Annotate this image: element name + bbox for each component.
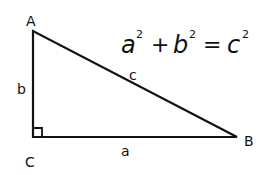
equation-c: c — [227, 31, 240, 59]
right-angle-marker — [33, 128, 42, 137]
equation-b: b — [173, 31, 188, 59]
vertex-label-a: A — [26, 13, 36, 29]
equation-equals: = — [203, 32, 221, 57]
equation-b-exponent: 2 — [189, 28, 196, 41]
equation-a: a — [121, 31, 136, 59]
equation-c-exponent: 2 — [242, 28, 249, 41]
equation-a-exponent: 2 — [136, 28, 143, 41]
equation-plus: + — [151, 32, 169, 57]
vertex-label-c: C — [25, 154, 35, 170]
side-label-a: a — [121, 143, 130, 159]
side-label-b: b — [17, 81, 26, 97]
vertex-label-b: B — [244, 133, 254, 149]
pythagorean-equation: a 2 + b 2 = c 2 — [121, 28, 249, 59]
right-triangle-diagram: A B C b a c a 2 + b 2 = c 2 — [0, 0, 265, 175]
side-label-c: c — [129, 67, 137, 83]
